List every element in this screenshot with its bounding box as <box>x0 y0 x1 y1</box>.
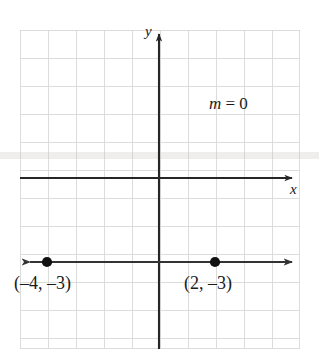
x-axis-label: x <box>290 182 297 197</box>
y-axis-label: y <box>145 24 152 39</box>
slope-variable: m <box>209 94 221 113</box>
graph-figure: y x m = 0 (–4, –3) (2, –3) <box>0 0 319 356</box>
data-point-left <box>42 257 52 267</box>
graph-vector-layer <box>0 0 319 356</box>
slope-annotation: m = 0 <box>209 95 248 112</box>
data-point-right <box>210 257 220 267</box>
point-label-left: (–4, –3) <box>14 274 71 292</box>
slope-relation: = 0 <box>221 94 248 113</box>
point-label-right: (2, –3) <box>184 274 232 292</box>
